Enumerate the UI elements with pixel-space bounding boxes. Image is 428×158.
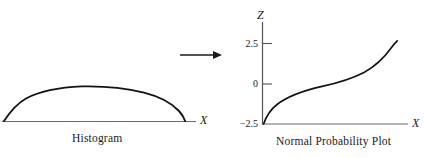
npp-ytick-label-zero: 0 <box>232 79 258 89</box>
npp-y-axis-label: Z <box>257 9 264 21</box>
histogram-x-axis-label: X <box>200 114 207 126</box>
transformation-arrow <box>180 51 222 59</box>
npp-x-axis-label: X <box>412 117 419 129</box>
histogram-density-curve <box>4 86 185 121</box>
histogram-caption: Histogram <box>72 133 122 145</box>
npp-ytick-label-lower: −2.5 <box>227 119 258 129</box>
npp-ytick-label-upper: 2.5 <box>232 39 258 49</box>
npp-s-curve <box>264 41 398 124</box>
npp-caption: Normal Probability Plot <box>276 136 391 148</box>
normal-probability-plot-figure: X Histogram Z 2.5 0 −2.5 X Normal Probab… <box>0 0 428 158</box>
